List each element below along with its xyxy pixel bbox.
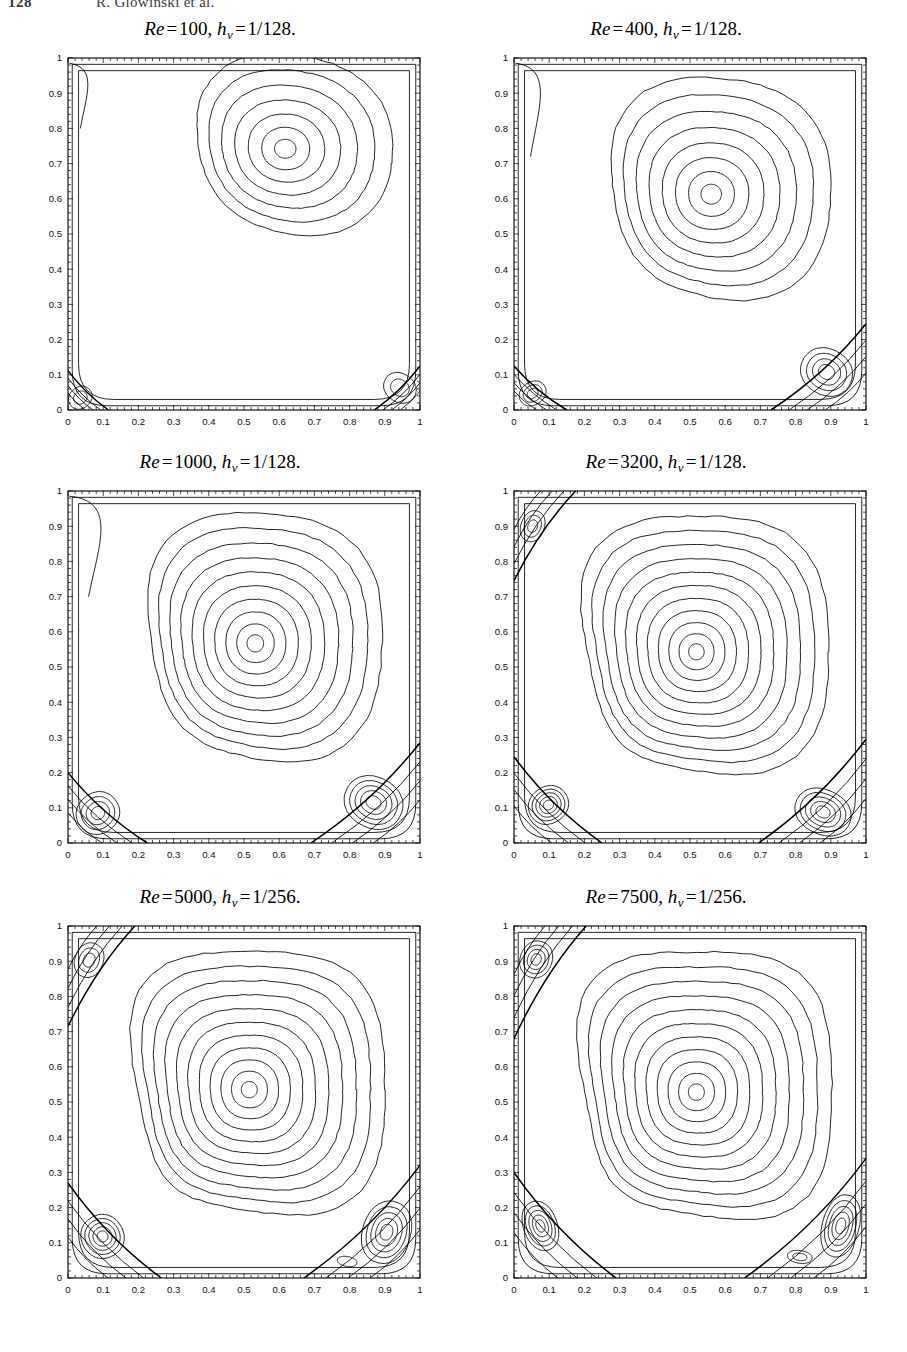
- x-tick-label: 0.6: [719, 849, 732, 860]
- streamline-contours: [68, 54, 420, 410]
- panel-plot-re1000: 00.10.20.30.40.50.60.70.80.9100.10.20.30…: [0, 481, 440, 881]
- panel-title-re5000: Re=5000, hv=1/256.: [0, 882, 440, 916]
- reynolds-value: 1000: [174, 451, 212, 472]
- reynolds-value: 7500: [620, 886, 658, 907]
- outer-streamline: [525, 71, 856, 400]
- x-tick-label: 0.3: [167, 1284, 180, 1295]
- y-tick-label: 0.4: [49, 264, 63, 275]
- secondary-vortex-contour-bottom-tertiary: [337, 1256, 357, 1266]
- x-tick-label: 0.5: [237, 849, 250, 860]
- secondary-vortex-contour-bottom-right: [832, 1212, 849, 1239]
- y-tick-label: 0.4: [49, 1132, 63, 1143]
- axis-ticks: [514, 491, 866, 843]
- streamline-plot-re400: 00.10.20.30.40.50.60.70.80.9100.10.20.30…: [446, 48, 886, 448]
- primary-vortex-contour: [199, 1035, 303, 1142]
- equals-sign-2: =: [684, 886, 699, 907]
- panel-plot-re5000: 00.10.20.30.40.50.60.70.80.9100.10.20.30…: [0, 916, 440, 1316]
- primary-vortex-contour: [668, 1062, 726, 1122]
- primary-vortex-contour: [159, 528, 368, 750]
- y-tick-label: 0.7: [49, 591, 62, 602]
- primary-vortex-contour: [689, 644, 705, 660]
- panel-plot-re400: 00.10.20.30.40.50.60.70.80.9100.10.20.30…: [446, 48, 886, 448]
- x-tick-label: 0.8: [789, 849, 802, 860]
- y-tick-label: 0.3: [49, 1167, 62, 1178]
- y-tick-label: 0.8: [49, 991, 62, 1002]
- y-tick-label: 0: [57, 837, 62, 848]
- primary-vortex-contour: [669, 623, 725, 681]
- x-tick-label: 0.9: [824, 416, 837, 427]
- equals-sign-2: =: [679, 18, 694, 39]
- y-tick-label: 0.6: [49, 1061, 62, 1072]
- panel-re3200: Re=3200, hv=1/128.00.10.20.30.40.50.60.7…: [446, 447, 886, 887]
- primary-vortex-contour: [580, 516, 829, 775]
- secondary-vortex-contour-bottom-right: [811, 801, 836, 822]
- primary-vortex-contour: [603, 545, 801, 751]
- outer-streamline: [79, 71, 410, 400]
- streamline-contours: [514, 926, 866, 1278]
- y-tick-label: 0.8: [495, 123, 508, 134]
- y-tick-label: 1: [503, 920, 508, 931]
- y-tick-label: 0.9: [495, 521, 508, 532]
- secondary-vortex-contour-bottom-left: [85, 1219, 120, 1255]
- streamline-plot-re5000: 00.10.20.30.40.50.60.70.80.9100.10.20.30…: [0, 916, 440, 1316]
- title-comma: ,: [212, 886, 222, 907]
- mesh-symbol: h: [668, 886, 678, 907]
- y-tick-label: 1: [503, 52, 508, 63]
- x-tick-label: 0.4: [202, 416, 216, 427]
- corner-streamline: [68, 378, 101, 410]
- separatrix-br: [304, 1165, 420, 1278]
- streamline-plot-re7500: 00.10.20.30.40.50.60.70.80.9100.10.20.30…: [446, 916, 886, 1316]
- x-tick-label: 0.5: [683, 416, 696, 427]
- mesh-symbol: h: [217, 18, 227, 39]
- reynolds-symbol: Re: [144, 18, 164, 39]
- secondary-vortex-contour-bottom-right: [800, 792, 846, 831]
- x-tick-label: 0.9: [378, 416, 391, 427]
- x-tick-label: 0.2: [578, 849, 591, 860]
- primary-vortex-contour: [221, 85, 357, 208]
- axis-tick-labels: 00.10.20.30.40.50.60.70.80.9100.10.20.30…: [49, 52, 423, 427]
- primary-vortex-contour: [636, 585, 761, 714]
- panel-re7500: Re=7500, hv=1/256.00.10.20.30.40.50.60.7…: [446, 882, 886, 1322]
- panel-title-re7500: Re=7500, hv=1/256.: [446, 882, 886, 916]
- streamline-plot-re1000: 00.10.20.30.40.50.60.70.80.9100.10.20.30…: [0, 481, 440, 881]
- y-tick-label: 0.9: [49, 521, 62, 532]
- x-tick-label: 0.3: [167, 849, 180, 860]
- reynolds-symbol: Re: [590, 18, 610, 39]
- primary-vortex-contour: [148, 512, 383, 762]
- x-tick-label: 1: [863, 416, 868, 427]
- outer-streamline: [518, 497, 862, 838]
- streamline-plot-re3200: 00.10.20.30.40.50.60.70.80.9100.10.20.30…: [446, 481, 886, 881]
- panel-re100: Re=100, hv=1/128.00.10.20.30.40.50.60.70…: [0, 14, 440, 454]
- primary-vortex-contour: [188, 1022, 316, 1153]
- top-left-jet-streamline: [69, 496, 101, 596]
- y-tick-label: 0.6: [49, 193, 62, 204]
- y-tick-label: 0.2: [495, 334, 508, 345]
- secondary-vortex-contour-bottom-right: [836, 1218, 846, 1234]
- y-tick-label: 0.1: [495, 802, 508, 813]
- x-tick-label: 0.1: [543, 849, 556, 860]
- x-tick-label: 0.7: [754, 849, 767, 860]
- x-tick-label: 1: [863, 849, 868, 860]
- streamline-plot-re100: 00.10.20.30.40.50.60.70.80.9100.10.20.30…: [0, 48, 440, 448]
- primary-vortex-contour: [688, 1084, 704, 1101]
- x-tick-label: 0.1: [97, 1284, 110, 1295]
- equals-sign-1: =: [606, 886, 621, 907]
- primary-vortex-contour: [635, 1024, 763, 1158]
- y-tick-label: 0.6: [495, 193, 508, 204]
- x-tick-label: 0.9: [824, 849, 837, 860]
- secondary-vortex-contour-bottom-right: [800, 348, 852, 397]
- y-tick-label: 0.2: [495, 1202, 508, 1213]
- mesh-value: 1/256: [252, 886, 295, 907]
- secondary-vortex-contour-bottom-right: [821, 1195, 861, 1257]
- mesh-value: 1/128: [698, 451, 741, 472]
- x-tick-label: 0: [65, 1284, 70, 1295]
- x-tick-label: 0.8: [789, 416, 802, 427]
- title-comma: ,: [654, 18, 664, 39]
- y-tick-label: 0: [503, 404, 508, 415]
- reynolds-value: 400: [625, 18, 654, 39]
- secondary-vortex-contour-bottom-left: [543, 800, 553, 810]
- y-tick-label: 0.6: [495, 1061, 508, 1072]
- equals-sign-1: =: [610, 18, 625, 39]
- x-tick-label: 0.3: [613, 849, 626, 860]
- y-tick-label: 0: [57, 1272, 62, 1283]
